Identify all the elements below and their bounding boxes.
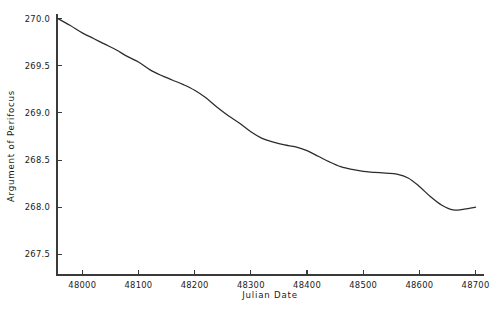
x-axis-title: Julian Date [241,290,298,300]
y-axis-tick-labels: 267.5268.0268.5269.0269.5270.0 [25,14,50,260]
data-line [58,19,475,210]
chart-figure: 267.5268.0268.5269.0269.5270.0 480004810… [0,0,498,311]
x-tick-label: 48000 [68,280,96,290]
x-tick-label: 48600 [405,280,433,290]
x-axis-tick-labels: 4800048100482004830048400485004860048700 [68,280,489,290]
x-tick-label: 48200 [181,280,209,290]
y-tick-label: 269.5 [25,61,50,71]
y-tick-label: 267.5 [25,249,50,259]
data-series-group [58,19,475,210]
y-tick-label: 268.5 [25,155,50,165]
x-axis-ticks [82,270,475,275]
x-tick-label: 48500 [349,280,377,290]
x-tick-label: 48100 [125,280,153,290]
y-tick-label: 268.0 [25,202,50,212]
y-tick-label: 270.0 [25,14,50,24]
y-axis-ticks [57,19,62,255]
y-axis-title: Argument of Perifocus [6,90,16,202]
x-tick-label: 48300 [237,280,265,290]
line-chart: 267.5268.0268.5269.0269.5270.0 480004810… [0,0,498,311]
y-tick-label: 269.0 [25,108,50,118]
x-tick-label: 48700 [462,280,490,290]
x-tick-label: 48400 [293,280,321,290]
